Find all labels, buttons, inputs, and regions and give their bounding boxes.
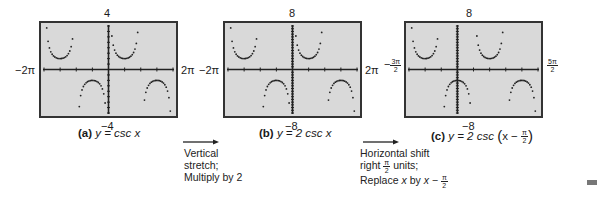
panel-c-xmax: 5π2 [547, 58, 558, 73]
arrow-icon [183, 139, 219, 145]
panel-b-xmax: 2π [365, 64, 379, 76]
graph-panel-b [223, 21, 362, 118]
caption-b: (b) y = 2 csc x [259, 127, 332, 139]
panel-b-xmin: −2π [199, 64, 219, 76]
transition-2-note: Horizontal shift right π2 units; Replace… [360, 147, 448, 189]
transition-1-note: Vertical stretch; Multiply by 2 [184, 147, 242, 183]
plot-b [225, 23, 360, 116]
caption-a: (a) y = csc x [78, 127, 140, 139]
panel-c-ymax: 8 [466, 7, 472, 19]
graph-panel-a [39, 21, 178, 118]
panel-b-ymax: 8 [289, 7, 295, 19]
fraction: π2 [383, 159, 390, 174]
plot-a [41, 23, 176, 116]
panel-a-xmax: 2π [181, 64, 195, 76]
fraction: π2 [441, 174, 448, 189]
end-marker [587, 180, 597, 185]
caption-c: (c) y = 2 csc (x − π2) [431, 127, 533, 144]
arrow-icon [363, 139, 399, 145]
panel-a-ymax: 4 [104, 7, 110, 19]
plot-c [406, 23, 541, 116]
panel-a-xmin: −2π [15, 64, 35, 76]
panel-c-xmin: −3π2 [384, 58, 401, 73]
graph-panel-c [404, 21, 543, 118]
